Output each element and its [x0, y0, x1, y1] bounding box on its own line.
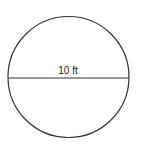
- circle-diagram: 10 ft: [0, 0, 141, 144]
- circle-outline: [8, 17, 129, 138]
- diameter-label: 10 ft: [58, 65, 78, 76]
